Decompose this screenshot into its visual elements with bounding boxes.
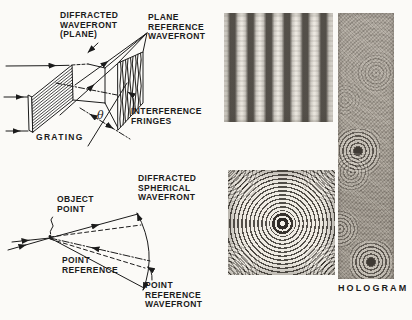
holography-figure: DIFFRACTED WAVEFRONT (PLANE) PLANE REFER… (0, 0, 412, 320)
corner-ring-pattern (228, 170, 260, 202)
point-reference-rays (8, 238, 50, 250)
spherical-wavefront-arc (137, 213, 149, 290)
interference-fringes-photo (224, 13, 333, 122)
label-plane-reference-wavefront: PLANE REFERENCE WAVEFRONT (148, 13, 205, 42)
label-interference-fringes: INTERFERENCE FRINGES (131, 107, 202, 126)
hologram-ring-pattern (338, 153, 370, 191)
label-object-point: OBJECT POINT (57, 195, 94, 214)
label-grating: GRATING (36, 133, 84, 143)
label-point-reference-wavefront: POINT REFERENCE WAVEFRONT (145, 281, 202, 310)
corner-ring-pattern (303, 170, 335, 202)
zone-plate-fringes-photo (228, 170, 335, 275)
label-point-reference: POINT REFERENCE (62, 256, 118, 275)
corner-ring-pattern (228, 243, 260, 275)
label-theta: θ (97, 111, 104, 121)
corner-ring-pattern (303, 243, 335, 275)
label-diffracted-wavefront-plane: DIFFRACTED WAVEFRONT (PLANE) (60, 11, 118, 40)
hologram-ring-pattern (350, 241, 392, 279)
label-diffracted-spherical-wavefront: DIFFRACTED SPHERICAL WAVEFRONT (138, 174, 196, 203)
hologram-strip-photo (338, 13, 394, 279)
grating-slab (28, 65, 73, 132)
label-hologram-caption: HOLOGRAM (338, 284, 408, 294)
diverging-cone (50, 214, 150, 288)
hologram-ring-pattern (338, 83, 362, 117)
object-point-marker (49, 217, 54, 238)
